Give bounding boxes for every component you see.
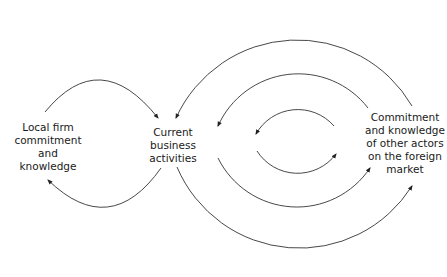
node-local-line-1: Local firm (12, 121, 84, 134)
node-local-firm-commitment: Local firm commitment and knowledge (12, 121, 84, 173)
node-local-line-2: commitment (12, 134, 84, 147)
node-other-actors-commitment: Commitment and knowledge of other actors… (360, 111, 447, 176)
arrow-outer-lower (177, 167, 412, 248)
node-other-line-5: market (360, 163, 447, 176)
node-current-line-3: activities (144, 152, 202, 165)
node-other-line-2: and knowledge (360, 124, 447, 137)
node-local-line-3: and (12, 147, 84, 160)
arrow-inner-lower (257, 151, 336, 173)
arrow-current-to-local (48, 168, 161, 207)
node-current-business-activities: Current business activities (144, 126, 202, 165)
node-other-line-1: Commitment (360, 111, 447, 124)
node-current-line-1: Current (144, 126, 202, 139)
arrow-local-to-current (45, 80, 158, 118)
node-local-line-4: knowledge (12, 160, 84, 173)
arrow-inner-upper (256, 110, 334, 134)
node-other-line-4: on the foreign (360, 150, 447, 163)
arrow-middle-lower (218, 158, 370, 207)
node-current-line-2: business (144, 139, 202, 152)
node-other-line-3: of other actors (360, 137, 447, 150)
arrow-outer-upper (176, 40, 412, 118)
arrow-middle-upper (218, 74, 368, 126)
